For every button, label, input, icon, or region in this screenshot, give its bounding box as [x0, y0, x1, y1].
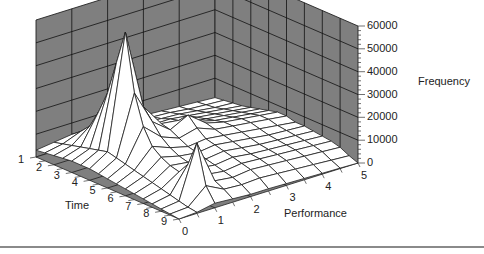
z-tick-label: 0 [367, 157, 373, 168]
x-tick-label: 5 [361, 170, 367, 181]
y-tick-label: 8 [143, 208, 149, 219]
y-axis-title: Time [65, 200, 89, 211]
y-tick-label: 7 [125, 201, 131, 212]
x-tick-label: 3 [289, 192, 295, 203]
y-tick-label: 9 [161, 216, 167, 227]
z-tick-label: 10000 [367, 134, 398, 145]
surface-chart [0, 0, 484, 254]
z-axis-title: Frequency [418, 76, 470, 87]
y-tick-label: 6 [107, 193, 113, 204]
z-tick-label: 20000 [367, 111, 398, 122]
z-tick-label: 30000 [367, 89, 398, 100]
x-tick-label: 0 [182, 226, 188, 237]
bottom-divider [0, 246, 484, 248]
z-tick-label: 60000 [367, 20, 398, 31]
z-tick-label: 40000 [367, 66, 398, 77]
y-tick-label: 3 [54, 170, 60, 181]
z-tick-label: 50000 [367, 43, 398, 54]
x-axis-title: Performance [284, 208, 347, 219]
y-tick-label: 1 [18, 154, 24, 165]
x-tick-label: 4 [325, 181, 331, 192]
x-tick-label: 1 [218, 215, 224, 226]
y-tick-label: 4 [72, 177, 78, 188]
y-tick-label: 5 [90, 185, 96, 196]
y-tick-label: 2 [36, 162, 42, 173]
x-tick-label: 2 [254, 204, 260, 215]
